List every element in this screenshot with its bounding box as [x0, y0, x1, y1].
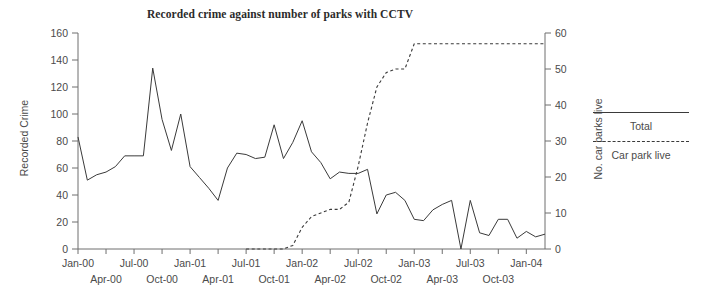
x-tick-label-bottom: Oct-01 — [258, 273, 290, 285]
x-tick-label-bottom: Apr-00 — [90, 273, 122, 285]
y-tick-label-right: 40 — [555, 99, 567, 111]
x-axis-labels: Jan-00Jul-00Jan-01Jul-01Jan-02Jul-02Jan-… — [62, 257, 543, 285]
y-tick-label-left: 60 — [56, 162, 68, 174]
y-tick-label-left: 20 — [56, 216, 68, 228]
x-tick-label-top: Jul-03 — [456, 257, 485, 269]
chart-container: Recorded crime against number of parks w… — [0, 0, 705, 300]
y-tick-label-right: 50 — [555, 63, 567, 75]
y-tick-label-left: 100 — [50, 108, 68, 120]
chart-legend: Total Car park live — [585, 112, 697, 170]
series-line-total — [78, 68, 545, 249]
y-tick-label-right: 20 — [555, 171, 567, 183]
y-tick-label-left: 40 — [56, 189, 68, 201]
x-tick-label-bottom: Oct-03 — [483, 273, 515, 285]
x-tick-label-bottom: Apr-01 — [202, 273, 234, 285]
x-tick-label-bottom: Apr-02 — [314, 273, 346, 285]
x-tick-label-bottom: Oct-02 — [370, 273, 402, 285]
y-tick-label-left: 80 — [56, 135, 68, 147]
x-tick-label-top: Jan-01 — [174, 257, 206, 269]
legend-label-total: Total — [585, 113, 697, 141]
y-tick-label-left: 0 — [62, 243, 68, 255]
x-tick-label-top: Jan-00 — [62, 257, 94, 269]
legend-label-car-park-live: Car park live — [585, 142, 697, 170]
x-tick-label-bottom: Oct-00 — [146, 273, 178, 285]
axes: 0204060801001201401600102030405060 — [50, 27, 566, 255]
x-tick-label-top: Jan-03 — [398, 257, 430, 269]
y-tick-label-left: 160 — [50, 27, 68, 39]
y-tick-label-left: 140 — [50, 54, 68, 66]
y-tick-label-right: 60 — [555, 27, 567, 39]
x-tick-label-top: Jul-01 — [232, 257, 261, 269]
data-series — [78, 44, 545, 249]
y-tick-label-right: 30 — [555, 135, 567, 147]
x-tick-label-top: Jan-04 — [510, 257, 542, 269]
x-tick-label-top: Jul-00 — [120, 257, 149, 269]
y-tick-label-left: 120 — [50, 81, 68, 93]
x-tick-label-bottom: Apr-03 — [427, 273, 459, 285]
x-tick-label-top: Jan-02 — [286, 257, 318, 269]
y-tick-label-right: 10 — [555, 207, 567, 219]
y-tick-label-right: 0 — [555, 243, 561, 255]
x-tick-label-top: Jul-02 — [344, 257, 373, 269]
